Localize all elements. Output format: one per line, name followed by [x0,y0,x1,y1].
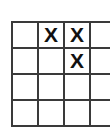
grid-cell-r1c4[interactable] [91,23,110,49]
grid-cell-r3c2[interactable] [39,75,65,101]
grid-cell-r1c1[interactable] [13,23,39,49]
grid-cell-r3c3[interactable] [65,75,91,101]
grid-cell-r3c4[interactable] [91,75,110,101]
grid-cell-r4c1[interactable] [13,101,39,127]
grid-cell-r4c4[interactable] [91,101,110,127]
grid-canvas: X X X [0,0,110,127]
grid-cell-r2c1[interactable] [13,49,39,75]
grid-cell-r2c3[interactable]: X [65,49,91,75]
grid-cell-r4c3[interactable] [65,101,91,127]
grid-cell-r1c3[interactable]: X [65,23,91,49]
cell-mark: X [70,50,84,71]
grid-cell-r1c2[interactable]: X [39,23,65,49]
grid-cell-r4c2[interactable] [39,101,65,127]
cell-mark: X [70,24,84,45]
grid-cell-r3c1[interactable] [13,75,39,101]
grid-cell-r2c2[interactable] [39,49,65,75]
grid-cell-r2c4[interactable] [91,49,110,75]
cell-mark: X [44,24,58,45]
grid-board[interactable]: X X X [11,21,110,127]
